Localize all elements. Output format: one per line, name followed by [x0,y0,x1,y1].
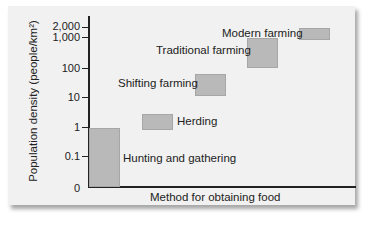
bar-shifting-farming [195,74,226,96]
tick-label-0: 0 [4,182,80,194]
bar-label-traditional-farming: Traditional farming [156,44,251,56]
bar-label-hunting-gathering: Hunting and gathering [123,152,236,164]
tick-label-100: 100 [4,62,80,74]
tick-10 [82,97,89,98]
bar-hunting-gathering [89,128,120,187]
bar-modern-farming [299,28,330,40]
x-axis [88,186,356,188]
tick-label-1000: 1,000 [4,31,80,43]
tick-label-1: 1 [4,121,80,133]
bar-label-shifting-farming: Shifting farming [118,77,198,89]
tick-label-0-1: 0.1 [4,150,80,162]
tick-1000 [82,37,89,38]
tick-100 [82,68,89,69]
bar-herding [142,114,173,130]
x-axis-label: Method for obtaining food [150,191,280,203]
tick-1 [82,127,89,128]
tick-0-1 [82,156,89,157]
tick-2000 [82,27,89,28]
bar-traditional-farming [247,38,278,68]
tick-label-10: 10 [4,91,80,103]
bar-label-herding: Herding [177,115,217,127]
bar-label-modern-farming: Modern farming [222,27,303,39]
